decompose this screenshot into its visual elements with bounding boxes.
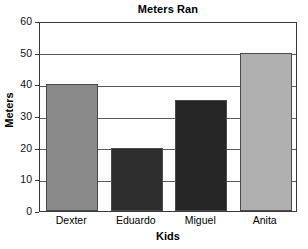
y-tick-label: 40	[2, 79, 32, 89]
y-tick-label: 30	[2, 111, 32, 121]
x-tick-label-eduardo: Eduardo	[104, 214, 169, 227]
y-tick-label: 0	[2, 206, 32, 216]
y-tick-label: 10	[2, 174, 32, 184]
x-axis-label: Kids	[39, 230, 297, 243]
bar-dexter	[46, 84, 98, 211]
bar-anita	[240, 53, 292, 211]
y-tick-mark	[35, 212, 39, 213]
y-tick-label: 60	[2, 16, 32, 26]
bar-miguel	[175, 100, 227, 211]
y-tick-label: 50	[2, 48, 32, 58]
plot-area	[39, 22, 297, 212]
chart-title: Meters Ran	[39, 2, 297, 16]
bar-chart: Meters Ran Meters 0102030405060 Kids Dex…	[0, 0, 308, 249]
x-tick-label-anita: Anita	[233, 214, 298, 227]
x-tick-label-dexter: Dexter	[39, 214, 104, 227]
x-tick-label-miguel: Miguel	[168, 214, 233, 227]
bar-eduardo	[111, 148, 163, 211]
y-axis-ticks: 0102030405060	[0, 0, 39, 249]
y-tick-label: 20	[2, 143, 32, 153]
